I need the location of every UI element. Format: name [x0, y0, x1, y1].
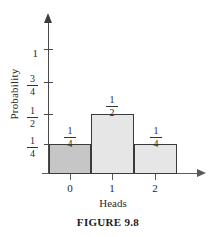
fraction-denominator: 2	[27, 119, 38, 129]
fraction-one-half: 1 2	[106, 95, 118, 118]
fraction-denominator: 4	[27, 87, 38, 97]
figure-container: 1 3 4 1 2 1 4	[0, 0, 216, 237]
fraction-denominator: 4	[27, 149, 38, 159]
x-tick-0	[70, 174, 71, 180]
fraction-denominator: 4	[64, 139, 76, 149]
fraction-denominator: 4	[150, 139, 162, 149]
bar-value-label-0: 1 4	[58, 126, 82, 149]
x-tick-label-1: 1	[102, 182, 122, 194]
x-tick-2	[155, 174, 156, 180]
figure-caption: FIGURE 9.8	[0, 216, 216, 228]
x-tick-label-2: 2	[145, 182, 165, 194]
x-axis-title: Heads	[78, 197, 148, 209]
fraction-one-quarter: 1 4	[27, 136, 38, 159]
x-tick-1	[112, 174, 113, 180]
fraction-numerator: 1	[106, 95, 118, 105]
y-tick-label-1-4: 1 4	[12, 136, 38, 159]
y-axis-title: Probability	[8, 54, 20, 134]
y-tick-1	[44, 49, 53, 50]
fraction-one-quarter: 1 4	[150, 126, 162, 149]
fraction-one-half: 1 2	[27, 106, 38, 129]
probability-histogram: 1 3 4 1 2 1 4	[0, 0, 216, 237]
fraction-one-quarter: 1 4	[64, 126, 76, 149]
y-axis-arrow-icon	[44, 13, 52, 23]
y-tick-1-2	[44, 114, 53, 115]
bar-value-label-1: 1 2	[100, 95, 124, 118]
bar-heads-1	[91, 114, 134, 174]
bar-value-label-2: 1 4	[144, 126, 168, 149]
y-tick-3-4	[44, 82, 53, 83]
x-axis-arrow-icon	[197, 169, 206, 177]
y-tick-label-1-text: 1	[33, 47, 39, 59]
fraction-numerator: 1	[27, 136, 38, 146]
fraction-numerator: 1	[64, 126, 76, 136]
x-tick-label-0: 0	[60, 182, 80, 194]
fraction-denominator: 2	[106, 108, 118, 118]
fraction-numerator: 1	[150, 126, 162, 136]
fraction-numerator: 1	[27, 106, 38, 116]
fraction-three-quarters: 3 4	[27, 74, 38, 97]
fraction-numerator: 3	[27, 74, 38, 84]
